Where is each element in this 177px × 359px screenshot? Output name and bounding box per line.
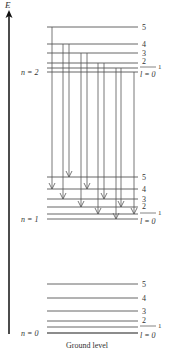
n1-l0: l = 0 bbox=[140, 217, 156, 226]
energy-level-diagram: E n = 2 5 4 3 2 1 l = 0 n = 1 5 4 3 2 1 … bbox=[0, 0, 177, 359]
n0-l1: 1 bbox=[158, 322, 162, 330]
n1-l4: 4 bbox=[142, 185, 146, 194]
energy-axis: E bbox=[4, 0, 13, 334]
n0-l5: 5 bbox=[142, 280, 146, 289]
level-group-n0 bbox=[47, 284, 138, 333]
n0-label: n = 0 bbox=[21, 329, 38, 338]
n1-l5: 5 bbox=[142, 173, 146, 182]
axis-label-e: E bbox=[4, 0, 11, 10]
n2-l4: 4 bbox=[142, 40, 146, 49]
n2-l1: 1 bbox=[158, 63, 162, 71]
n0-l2: 2 bbox=[142, 316, 146, 325]
n0-l0: l = 0 bbox=[140, 331, 156, 340]
n1-label: n = 1 bbox=[21, 215, 38, 224]
n1-l1: 1 bbox=[158, 209, 162, 217]
n2-label: n = 2 bbox=[21, 68, 38, 77]
n2-l2: 2 bbox=[142, 57, 146, 66]
n2-l5: 5 bbox=[142, 23, 146, 32]
n2-l0: l = 0 bbox=[140, 70, 156, 79]
n0-l3: 3 bbox=[142, 307, 146, 316]
n1-l2: 2 bbox=[142, 202, 146, 211]
level-group-n2 bbox=[47, 27, 138, 72]
n0-l4: 4 bbox=[142, 294, 146, 303]
transitions bbox=[49, 27, 137, 219]
level-group-n1 bbox=[47, 177, 138, 219]
ground-level-label: Ground level bbox=[66, 341, 109, 350]
